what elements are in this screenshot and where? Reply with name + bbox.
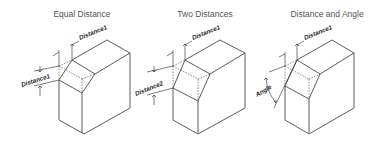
chamfer-block-diagram: Distance1 Angle [255,0,385,149]
chamfer-block-diagram: Distance1 Distance1 [0,0,140,149]
side-dimension-label: Angle [253,83,273,99]
top-dimension-label: Distance1 [303,23,334,41]
top-dimension-label: Distance1 [191,23,222,41]
chamfer-block-diagram: Distance1 Distance2 [125,0,265,149]
panel-equal-distance: Equal Distance Distance1 Distance1 [0,0,128,149]
panel-distance-and-angle: Distance and Angle Distance1 Angle [255,0,383,149]
top-dimension-label: Distance1 [78,23,109,41]
panel-two-distances: Two Distances Distance1 Distance2 [125,0,253,149]
